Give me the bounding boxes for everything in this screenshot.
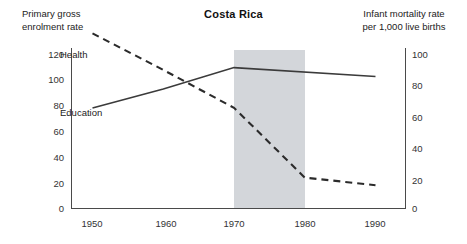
series-label-education: Education	[60, 107, 102, 118]
plot-area	[0, 0, 467, 244]
series-line-education	[93, 68, 376, 109]
series-label-health: Health	[60, 49, 87, 60]
series-line-health	[93, 33, 376, 185]
chart-container: Primary gross enrolment rate Costa Rica …	[0, 0, 467, 244]
